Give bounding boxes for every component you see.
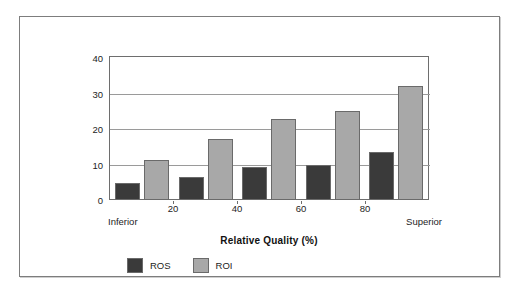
bar-group <box>175 58 239 200</box>
x-axis-endpoint-superior: Superior <box>406 216 442 227</box>
x-axis-tick-label: 80 <box>360 203 371 214</box>
chart-legend: ROSROI <box>127 258 232 273</box>
x-axis-endpoint-labels: Inferior Superior <box>80 216 460 230</box>
figure-frame: 010203040 20406080 Inferior Superior Rel… <box>19 16 500 277</box>
bar-roi <box>208 139 233 200</box>
bar-ros <box>179 177 204 200</box>
chart-page: 010203040 20406080 Inferior Superior Rel… <box>0 0 516 295</box>
x-axis-tick-label: 60 <box>296 203 307 214</box>
bar-group <box>365 58 429 200</box>
legend-item-roi: ROI <box>193 258 233 273</box>
bar-group <box>302 58 366 200</box>
legend-item-ros: ROS <box>127 258 171 273</box>
bar-group <box>111 58 175 200</box>
y-axis-tick-label: 20 <box>73 124 103 135</box>
legend-label: ROI <box>216 260 233 271</box>
bar-ros <box>306 165 331 200</box>
y-axis-tick-label: 10 <box>73 159 103 170</box>
bar-ros <box>242 167 267 200</box>
legend-label: ROS <box>150 260 171 271</box>
x-axis-title: Relative Quality (%) <box>109 235 429 246</box>
bar-roi <box>335 111 360 200</box>
x-axis-tick-label: 20 <box>168 203 179 214</box>
x-axis-endpoint-inferior: Inferior <box>108 216 138 227</box>
x-axis-tick-label: 40 <box>232 203 243 214</box>
legend-swatch-roi <box>193 258 209 273</box>
y-axis-tick-label: 40 <box>73 53 103 64</box>
y-axis-tick-labels: 010203040 <box>71 56 103 200</box>
bar-ros <box>369 152 394 200</box>
legend-swatch-ros <box>127 258 143 273</box>
bar-roi <box>398 86 423 200</box>
bars-layer <box>111 58 429 200</box>
bar-roi <box>271 119 296 200</box>
bar-roi <box>144 160 169 200</box>
plot-wrapper <box>109 56 429 200</box>
bar-group <box>238 58 302 200</box>
plot-area <box>109 56 429 200</box>
y-axis-tick-label: 30 <box>73 88 103 99</box>
bar-ros <box>115 183 140 200</box>
y-axis-tick-label: 0 <box>73 195 103 206</box>
